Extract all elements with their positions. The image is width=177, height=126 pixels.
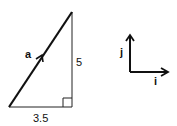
- right-angle-marker: [63, 98, 72, 107]
- i-label: i: [154, 76, 157, 87]
- vertical-side-label: 5: [76, 57, 82, 68]
- horizontal-side-label: 3.5: [33, 113, 48, 124]
- diagram-canvas: [0, 0, 177, 126]
- vector-a-line: [9, 12, 72, 107]
- j-label: j: [120, 47, 123, 58]
- triangle: [9, 12, 72, 107]
- vector-a-label: a: [25, 49, 31, 60]
- unit-vectors: [126, 35, 168, 76]
